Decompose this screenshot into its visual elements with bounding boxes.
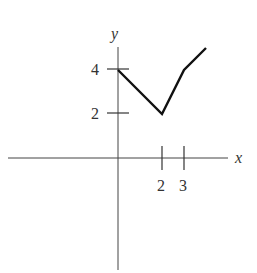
y-tick-label-2: 2	[91, 105, 99, 122]
x-tick-label-3: 3	[179, 177, 187, 194]
function-curve	[118, 48, 206, 114]
y-axis-label: y	[109, 25, 119, 43]
x-axis-label: x	[234, 149, 242, 166]
graph: x y 2 3 4 2	[0, 0, 257, 273]
y-tick-label-4: 4	[91, 61, 99, 78]
x-tick-label-2: 2	[157, 177, 165, 194]
